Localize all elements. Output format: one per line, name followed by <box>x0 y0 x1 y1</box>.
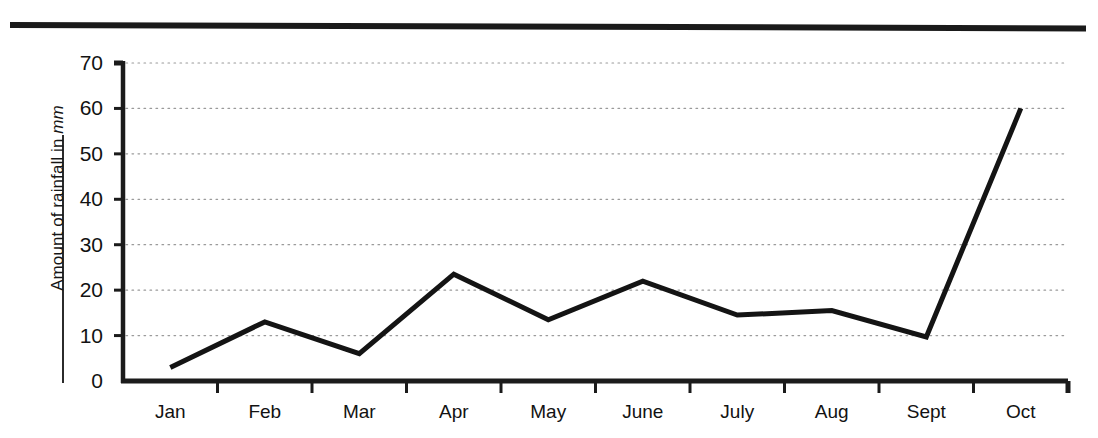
x-tick-label: Jan <box>123 402 218 421</box>
y-tick-label: 10 <box>59 325 103 346</box>
x-tick-label: Oct <box>974 402 1069 421</box>
chart-plot-area <box>0 0 1098 438</box>
y-tick-label: 0 <box>59 370 103 391</box>
x-tick-label: Sept <box>879 402 974 421</box>
y-tick-label: 20 <box>59 279 103 300</box>
rainfall-data-line <box>170 108 1021 367</box>
x-tick-label: May <box>501 402 596 421</box>
y-tick-label: 50 <box>59 143 103 164</box>
rainfall-line-chart: Amount of rainfall in mm 010203040506070… <box>0 0 1098 438</box>
chart-axes <box>114 61 1068 393</box>
x-tick-label: Mar <box>312 402 407 421</box>
x-tick-label: Aug <box>785 402 880 421</box>
x-tick-label: July <box>690 402 785 421</box>
y-tick-label: 40 <box>59 188 103 209</box>
x-tick-label: Feb <box>218 402 313 421</box>
y-tick-label: 70 <box>59 52 103 73</box>
y-tick-label: 30 <box>59 234 103 255</box>
gridlines <box>126 63 1068 336</box>
chart-page: Amount of rainfall in mm 010203040506070… <box>0 0 1098 438</box>
x-tick-label: Apr <box>407 402 502 421</box>
y-tick-label: 60 <box>59 97 103 118</box>
x-tick-label: June <box>596 402 691 421</box>
